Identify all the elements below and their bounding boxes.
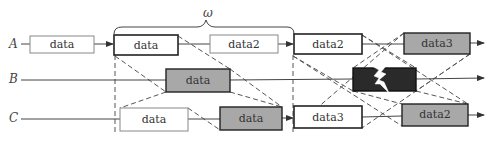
channel-b-label: B	[8, 72, 18, 86]
box-c2-label: data	[239, 112, 264, 125]
box-a2-label: data	[134, 39, 159, 52]
box-a3-label: data2	[228, 38, 260, 51]
channel-b: B data	[8, 62, 484, 93]
box-a1-label: data	[50, 38, 75, 51]
box-c4-label: data2	[419, 108, 451, 121]
channel-a: A data data data2 data2 data3	[8, 33, 484, 55]
box-a4-label: data2	[312, 38, 344, 51]
window-brace	[114, 20, 294, 34]
box-a5-label: data3	[421, 37, 453, 50]
box-c1-label: data	[142, 113, 167, 126]
channel-a-label: A	[8, 37, 18, 51]
channel-c: C data data data3 data2	[9, 104, 484, 131]
box-c3-label: data3	[312, 111, 344, 124]
window-label: ω	[203, 6, 213, 20]
channel-c-label: C	[9, 111, 18, 125]
message-timing-diagram: ω A data data data2	[0, 0, 492, 142]
box-b1-label: data	[186, 74, 211, 87]
